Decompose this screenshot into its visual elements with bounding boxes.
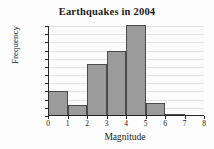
y-tick-mark	[45, 26, 48, 27]
x-tick-label: 8	[197, 120, 211, 128]
x-tick-label: 1	[61, 120, 75, 128]
x-tick-label: 4	[119, 120, 133, 128]
x-tick-label: 0	[41, 120, 55, 128]
y-tick-mark	[45, 51, 48, 52]
y-tick-mark	[45, 75, 48, 76]
chart-title: Earthquakes in 2004	[0, 6, 214, 17]
x-tick-label: 2	[80, 120, 94, 128]
histogram-bar	[107, 51, 127, 116]
histogram-bar	[48, 91, 68, 116]
y-tick-mark	[45, 100, 48, 101]
y-tick-mark	[45, 42, 48, 43]
y-tick-mark	[45, 91, 48, 92]
y-axis-line	[48, 26, 49, 116]
y-tick-mark	[45, 83, 48, 84]
x-tick-label: 6	[158, 120, 172, 128]
plot-area: 01,0002,0003,0004,0005,0006,0007,0008,00…	[48, 26, 204, 116]
y-tick-mark	[45, 108, 48, 109]
chart-figure: Earthquakes in 2004 Frequency 01,0002,00…	[0, 0, 214, 149]
histogram-bar	[126, 25, 146, 116]
y-tick-mark	[45, 34, 48, 35]
y-tick-mark	[45, 67, 48, 68]
x-tick-label: 7	[178, 120, 192, 128]
x-tick-label: 5	[139, 120, 153, 128]
y-axis-label: Frequency	[10, 10, 20, 80]
y-tick-mark	[45, 59, 48, 60]
x-axis-label: Magnitude	[40, 132, 210, 142]
x-tick-label: 3	[100, 120, 114, 128]
histogram-bar	[87, 64, 107, 116]
